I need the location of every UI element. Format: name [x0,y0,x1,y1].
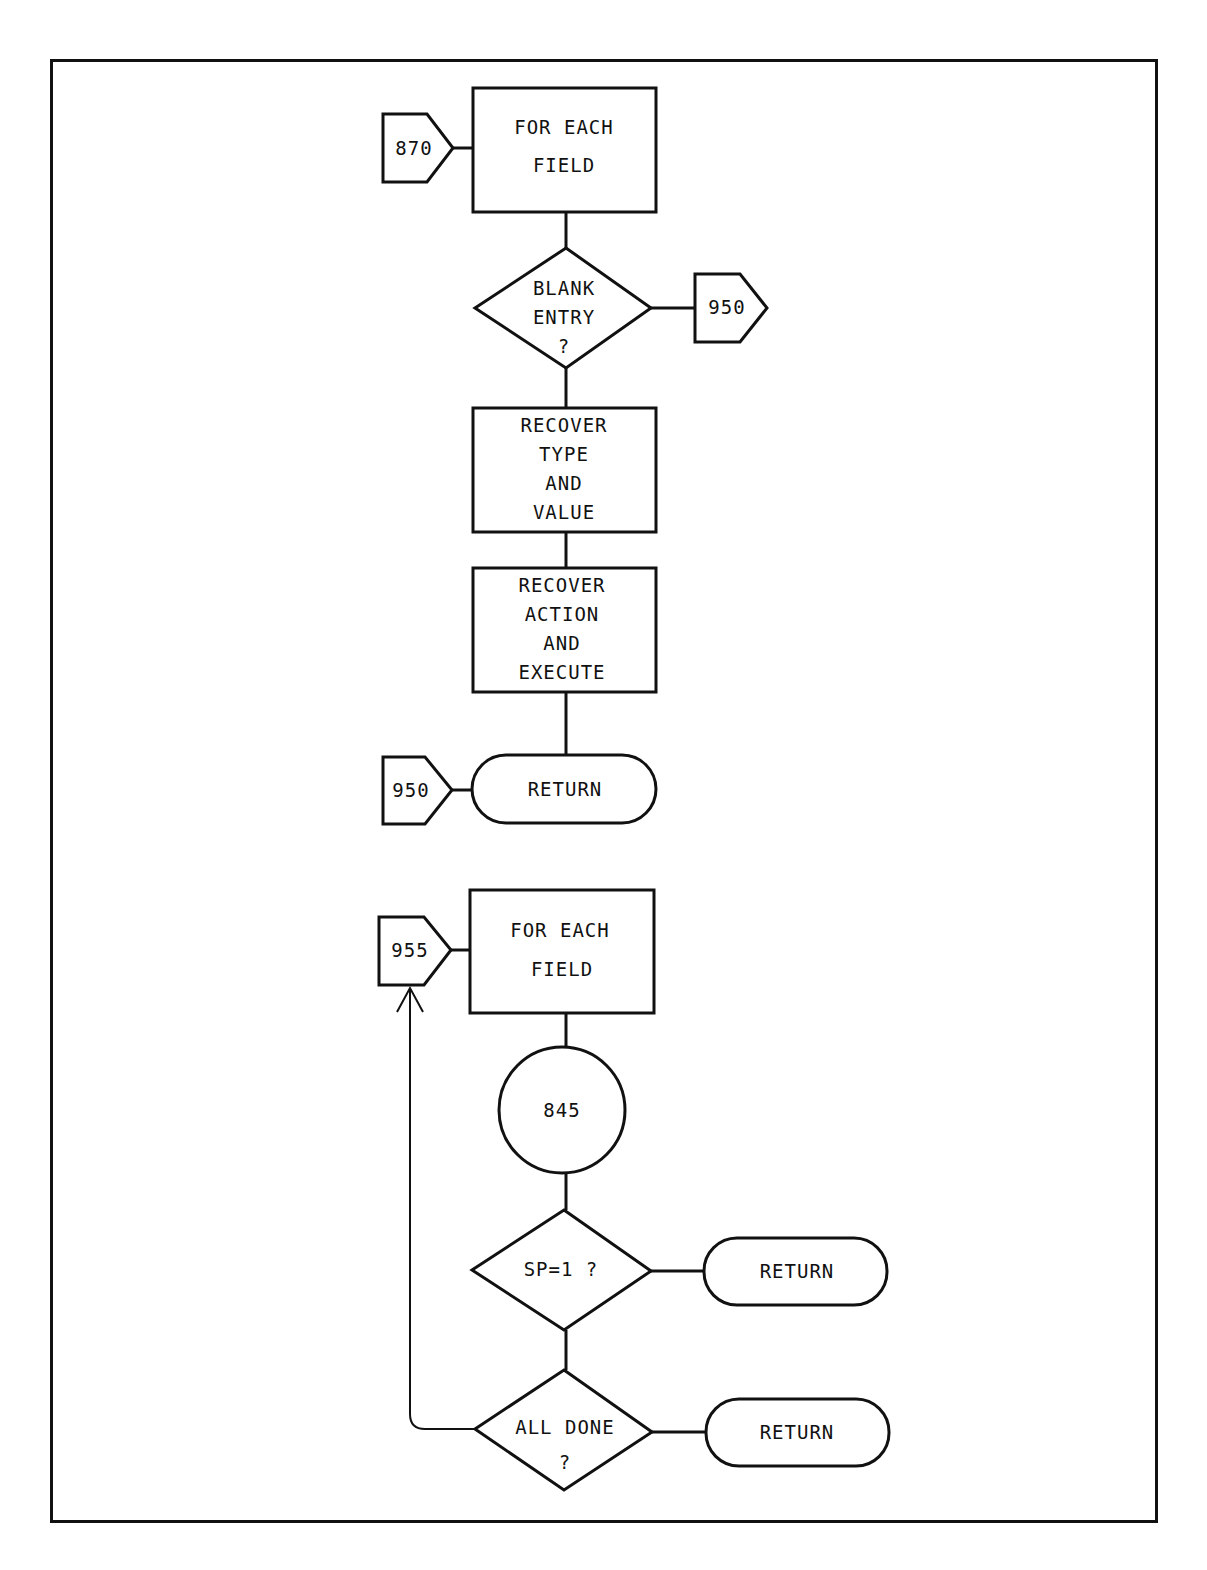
step2-line3: AND [543,632,580,654]
step1-line3: AND [545,472,582,494]
decision-label-line3: ? [558,335,570,357]
loop-label-line2: FIELD [533,154,595,176]
process-for-each-field-top: FOR EACH FIELD [473,88,656,212]
step1-line2: TYPE [539,443,589,465]
decision-label-line2: ENTRY [533,306,595,328]
connector-955-label: 955 [391,939,428,961]
return-label: RETURN [528,778,603,800]
loop-label-line1: FOR EACH [514,116,614,138]
connector-950-left: 950 [383,757,452,824]
loop2-label-line2: FIELD [531,958,593,980]
connector-950-label: 950 [708,296,745,318]
return-alldone-label: RETURN [760,1421,835,1443]
step1-line1: RECOVER [520,414,607,436]
connector-870: 870 [383,114,453,182]
decision-all-done: ALL DONE ? [475,1370,652,1490]
process-recover-action-execute: RECOVER ACTION AND EXECUTE [473,568,656,692]
flowchart: 870 FOR EACH FIELD BLANK ENTRY ? 950 REC… [0,0,1207,1570]
terminator-return-alldone: RETURN [706,1399,889,1466]
connector-955: 955 [379,917,451,985]
subroutine-845-label: 845 [543,1099,580,1121]
decision-blank-entry: BLANK ENTRY ? [475,248,651,368]
loop2-label-line1: FOR EACH [510,919,610,941]
step1-line4: VALUE [533,501,595,523]
decision-alldone-line1: ALL DONE [515,1416,615,1438]
decision-sp-label: SP=1 ? [524,1258,599,1280]
loop-back-arrow [410,988,475,1429]
return-sp-label: RETURN [760,1260,835,1282]
decision-sp-equals-1: SP=1 ? [472,1210,651,1330]
step2-line4: EXECUTE [518,661,605,683]
connector-870-label: 870 [395,137,432,159]
connector-950-right: 950 [695,274,767,342]
terminator-return-top: RETURN [472,755,656,823]
terminator-return-sp: RETURN [704,1238,887,1305]
decision-alldone-line2: ? [559,1451,571,1473]
step2-line2: ACTION [525,603,600,625]
process-recover-type-value: RECOVER TYPE AND VALUE [473,408,656,532]
step2-line1: RECOVER [518,574,605,596]
process-for-each-field-bottom: FOR EACH FIELD [470,890,654,1013]
decision-label-line1: BLANK [533,277,595,299]
subroutine-845: 845 [499,1047,625,1173]
connector-950-left-label: 950 [392,779,429,801]
